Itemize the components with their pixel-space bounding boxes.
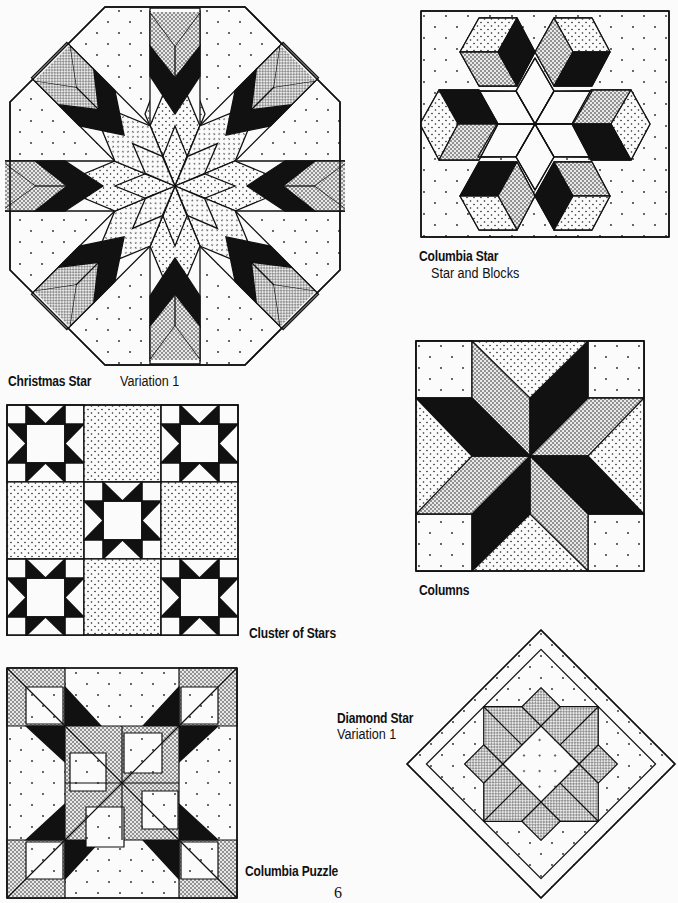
christmas-star-subtitle: Variation 1 — [120, 373, 179, 389]
diamond-star-title: Diamond Star — [337, 710, 413, 726]
diamond-star-block — [405, 628, 677, 900]
columbia-star-subtitle: Star and Blocks — [431, 265, 519, 281]
cluster-of-stars-title: Cluster of Stars — [249, 625, 336, 641]
columbia-star-title: Columbia Star — [419, 248, 498, 264]
columbia-puzzle-title: Columbia Puzzle — [245, 863, 338, 879]
christmas-star-title: Christmas Star — [8, 373, 91, 389]
columns-title: Columns — [419, 582, 469, 598]
diamond-star-subtitle: Variation 1 — [337, 726, 396, 742]
columbia-puzzle-block — [6, 667, 238, 899]
cluster-of-stars-block — [6, 404, 239, 636]
christmas-star-block — [5, 5, 345, 367]
columbia-star-block — [420, 10, 670, 238]
page-number: 6 — [334, 884, 342, 902]
columns-block — [415, 340, 645, 572]
